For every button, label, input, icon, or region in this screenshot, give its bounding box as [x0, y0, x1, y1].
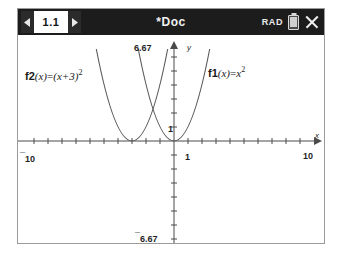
page-tab-1-1[interactable]: 1.1 — [34, 11, 68, 33]
y-axis — [170, 41, 178, 243]
function-name-f1: f1 — [208, 67, 218, 79]
prev-page-button[interactable] — [21, 11, 34, 33]
page-tab-group: 1.1 — [21, 11, 81, 33]
triangle-right-icon — [71, 18, 78, 27]
close-icon[interactable] — [304, 14, 320, 30]
curve-f2[interactable] — [96, 49, 167, 141]
nspire-window: 1.1 *Doc RAD — [17, 8, 325, 244]
title-bar: 1.1 *Doc RAD — [18, 9, 324, 35]
angle-mode-indicator[interactable]: RAD — [262, 17, 283, 27]
x-axis — [18, 137, 322, 145]
function-label-f1[interactable]: f1(x)=x2 — [208, 65, 245, 79]
graph-plot — [18, 35, 324, 243]
graph-canvas[interactable]: f2(x)=(x+3)2 f1(x)=x2 6.67 ¯6.67 ¯10 10 … — [18, 35, 324, 243]
next-page-button[interactable] — [68, 11, 81, 33]
battery-icon[interactable] — [288, 15, 299, 30]
status-group: RAD — [262, 9, 320, 35]
function-name-f2: f2 — [25, 70, 35, 82]
function-label-f2[interactable]: f2(x)=(x+3)2 — [25, 68, 82, 82]
triangle-left-icon — [24, 18, 31, 27]
